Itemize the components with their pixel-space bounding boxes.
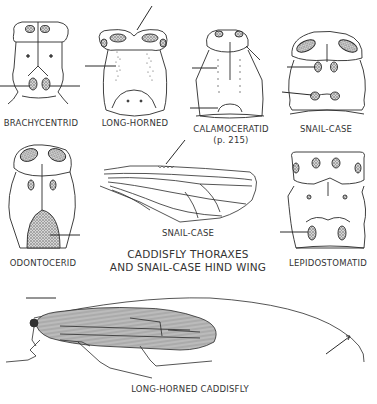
odontocerid-label: ODONTOCERID — [2, 258, 84, 268]
long-horned-setae — [115, 51, 153, 80]
snail-case-thorax — [282, 31, 365, 114]
snail-case-hind-wing — [100, 140, 257, 222]
illustration-canvas — [0, 0, 377, 404]
figure-title-line1: CADDISFLY THORAXES — [88, 248, 288, 261]
brachycentrid-label: BRACHYCENTRID — [2, 118, 80, 128]
odontocerid-thorax — [9, 145, 80, 248]
adult-caddisfly-label: LONG-HORNED CADDISFLY — [100, 384, 280, 394]
figure-title-line2: AND SNAIL-CASE HIND WING — [88, 261, 288, 274]
brachycentrid-thorax — [0, 22, 80, 104]
calamoceratid-page-ref: (p. 215) — [188, 135, 274, 145]
snail-case-label: SNAIL-CASE — [286, 124, 366, 134]
calamoceratid-setae — [217, 59, 240, 92]
long-horned-caddisfly-adult — [6, 298, 364, 378]
lepidostomatid-label: LEPIDOSTOMATID — [282, 258, 374, 268]
hind-wing-label: SNAIL-CASE — [148, 228, 228, 238]
calamoceratid-thorax — [190, 30, 264, 118]
long-horned-label: LONG-HORNED — [96, 118, 174, 128]
long-horned-thorax — [85, 6, 167, 116]
calamoceratid-label: CALAMOCERATID — [188, 124, 274, 134]
lepidostomatid-thorax — [280, 152, 366, 248]
